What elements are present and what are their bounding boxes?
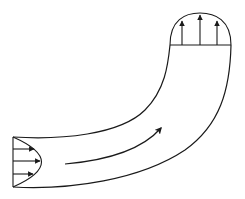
pipe-inner-wall xyxy=(13,45,170,138)
pipe xyxy=(13,45,231,188)
pipe-flow-diagram xyxy=(0,0,245,199)
inlet-velocity-profile xyxy=(13,137,42,187)
inlet-parabolic-curve xyxy=(13,137,42,187)
outlet-velocity-profile xyxy=(170,13,231,45)
pipe-outer-wall xyxy=(13,45,231,188)
flow-direction-arrow-icon xyxy=(65,128,161,164)
